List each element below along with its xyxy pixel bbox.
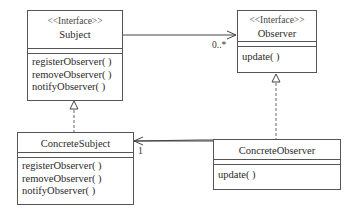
operation: notifyObserver( ) — [22, 185, 129, 198]
operations-compartment: registerObserver( ) removeObserver( ) no… — [18, 158, 133, 200]
operations-compartment: update( ) — [214, 165, 340, 184]
class-concrete-subject: ConcreteSubject registerObserver( ) remo… — [17, 132, 134, 205]
class-concrete-subject-header: ConcreteSubject — [18, 133, 133, 152]
operations-compartment: registerObserver( ) removeObserver( ) no… — [28, 54, 122, 96]
class-name: ConcreteSubject — [18, 137, 133, 150]
class-concrete-observer: ConcreteObserver update( ) — [213, 139, 341, 190]
class-subject-header: <<Interface>> Subject — [28, 11, 122, 48]
stereotype-label: <<Interface>> — [28, 15, 122, 28]
operation: registerObserver( ) — [32, 56, 118, 69]
operation: removeObserver( ) — [22, 173, 129, 186]
class-observer: <<Interface>> Observer update( ) — [237, 10, 317, 73]
class-name: Observer — [238, 27, 316, 40]
class-name: ConcreteObserver — [214, 144, 340, 157]
operation: update( ) — [242, 51, 312, 64]
operation: removeObserver( ) — [32, 69, 118, 82]
class-subject: <<Interface>> Subject registerObserver( … — [27, 10, 123, 101]
multiplicity-observer-end: 0..* — [212, 40, 226, 50]
operations-compartment: update( ) — [238, 47, 316, 66]
class-observer-header: <<Interface>> Observer — [238, 11, 316, 41]
stereotype-label: <<Interface>> — [238, 14, 316, 27]
class-name: Subject — [28, 28, 122, 41]
multiplicity-subject-end: 1 — [138, 146, 143, 156]
operation: notifyObserver( ) — [32, 81, 118, 94]
operation: registerObserver( ) — [22, 160, 129, 173]
operation: update( ) — [218, 169, 336, 182]
class-concrete-observer-header: ConcreteObserver — [214, 140, 340, 159]
